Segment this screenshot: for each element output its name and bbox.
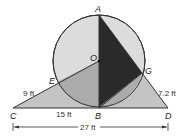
label-b: B: [95, 111, 101, 121]
measure-ce: 9 ft: [23, 89, 35, 98]
measure-gd: 7.2 ft: [158, 89, 177, 98]
label-g: G: [145, 66, 152, 76]
arrow-left-icon: [14, 126, 19, 129]
label-a: A: [94, 4, 101, 14]
arrow-right-icon: [162, 126, 167, 129]
label-e: E: [49, 76, 56, 86]
label-c: C: [10, 111, 17, 121]
geometry-diagram: A O B C D E G 9 ft 15 ft 7.2 ft 27 ft: [0, 0, 185, 140]
measure-cd: 27 ft: [80, 123, 96, 132]
center-dot: [98, 60, 101, 63]
label-o: O: [90, 53, 97, 63]
label-d: D: [165, 111, 172, 121]
measure-cb: 15 ft: [56, 110, 72, 119]
